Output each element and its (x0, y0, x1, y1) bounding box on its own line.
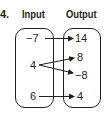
arrow-4-to-neg8 (39, 65, 73, 73)
mapping-arrows (0, 0, 107, 118)
arrow-4-to-8 (39, 58, 74, 65)
